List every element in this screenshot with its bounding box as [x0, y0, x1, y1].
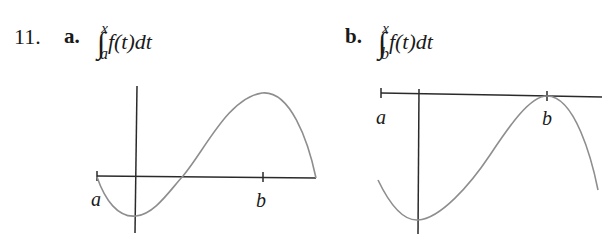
tick-label-a: a: [91, 188, 101, 210]
graphs: a b a b: [0, 0, 604, 234]
tick-label-a: a: [376, 106, 386, 128]
function-curve: [378, 96, 598, 220]
x-axis: [381, 93, 602, 97]
y-axis: [418, 89, 419, 234]
y-axis: [135, 86, 137, 233]
graph-b: a b: [376, 88, 602, 234]
tick-label-b: b: [256, 189, 266, 211]
graph-a: a b: [91, 86, 316, 233]
x-axis: [97, 176, 316, 178]
function-curve: [97, 93, 316, 216]
tick-label-b: b: [542, 107, 552, 129]
